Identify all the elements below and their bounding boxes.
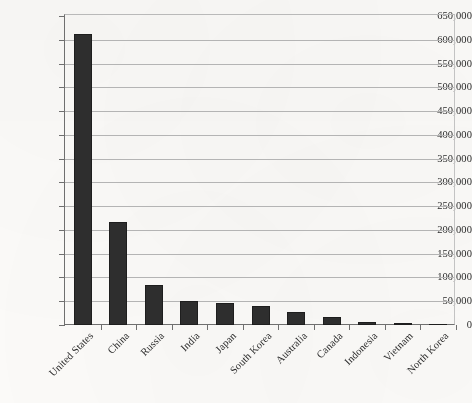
bar <box>74 34 92 325</box>
x-axis-label: Canada <box>314 330 344 360</box>
x-axis-label: India <box>179 330 202 353</box>
x-axis-label: Japan <box>213 330 238 355</box>
x-axis-label: Australia <box>273 330 309 366</box>
chart-figure: 050,000100,000150,000200,000250,000300,0… <box>0 0 472 403</box>
bar <box>287 312 305 325</box>
y-axis-tick <box>59 325 65 326</box>
bar <box>394 323 412 325</box>
x-axis-label: Indonesia <box>343 330 380 367</box>
bar <box>252 306 270 325</box>
bar <box>429 324 447 325</box>
bar-series <box>65 15 454 325</box>
bar <box>145 285 163 325</box>
bar <box>358 322 376 325</box>
x-axis-label: Vietnam <box>382 330 415 363</box>
x-axis-label: United States <box>47 330 96 379</box>
x-axis-labels: United StatesChinaRussiaIndiaJapanSouth … <box>0 330 472 403</box>
bar <box>109 222 127 325</box>
bar <box>180 301 198 325</box>
bar <box>216 303 234 325</box>
bar <box>323 317 341 325</box>
x-axis-label: Russia <box>139 330 167 358</box>
x-axis-label: China <box>105 330 131 356</box>
